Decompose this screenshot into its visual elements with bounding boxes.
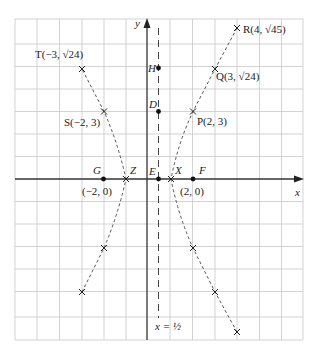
x-axis-arrow-icon	[294, 176, 304, 183]
label-G: G	[93, 164, 101, 176]
y-axis-arrow-icon	[144, 18, 151, 28]
point-E-dot	[156, 177, 161, 182]
asymptote-label: x = ½	[154, 320, 181, 332]
coord-label-G: (−2, 0)	[82, 185, 112, 198]
label-X: X	[174, 164, 183, 176]
label-S: S(−2, 3)	[64, 116, 100, 129]
point-F-dot	[191, 177, 196, 182]
label-Z: Z	[130, 164, 137, 176]
x-axis-label: x	[294, 186, 300, 198]
lower-right-1-marker	[190, 245, 196, 251]
label-E: E	[148, 165, 156, 177]
point-H-dot	[156, 66, 161, 71]
coord-label-F: (2, 0)	[180, 185, 204, 198]
label-T: T(−3, √24)	[35, 48, 84, 61]
label-Q: Q(3, √24)	[216, 70, 260, 83]
label-D: D	[148, 98, 157, 110]
y-axis-label: y	[134, 17, 140, 29]
label-F: F	[198, 164, 206, 176]
label-R: R(4, √45)	[243, 23, 286, 36]
point-G-dot	[101, 177, 106, 182]
hyperbola-diagram: y x T(−3, √24) R(4, √45) Q(3, √24) S(−2,…	[0, 0, 323, 361]
label-P: P(2, 3)	[197, 115, 227, 128]
label-H: H	[147, 62, 157, 74]
